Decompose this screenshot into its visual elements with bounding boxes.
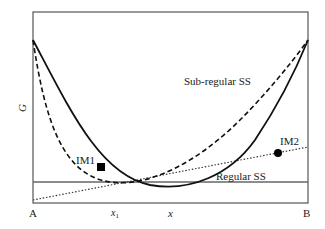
y-axis-label: G	[16, 104, 28, 112]
x-axis-label: x	[167, 207, 173, 219]
x1-marker-label: x1	[110, 207, 119, 220]
plot-frame	[33, 12, 308, 203]
endpoint-a-label: A	[29, 207, 37, 219]
im2-circle-marker	[274, 149, 282, 157]
im1-label: IM1	[76, 154, 95, 166]
im2-label: IM2	[280, 135, 299, 147]
x1-marker-subscript: 1	[115, 212, 119, 220]
subregular-ss-label: Sub-regular SS	[184, 75, 251, 87]
regular-ss-curve	[33, 40, 308, 187]
endpoint-b-label: B	[303, 207, 310, 219]
subregular-ss-curve	[33, 40, 308, 183]
im1-square-marker	[97, 163, 105, 171]
gibbs-energy-diagram: IM1 IM2 Sub-regular SS Regular SS G A x1…	[0, 0, 325, 229]
regular-ss-label: Regular SS	[216, 170, 266, 182]
tangent-line	[33, 147, 308, 200]
